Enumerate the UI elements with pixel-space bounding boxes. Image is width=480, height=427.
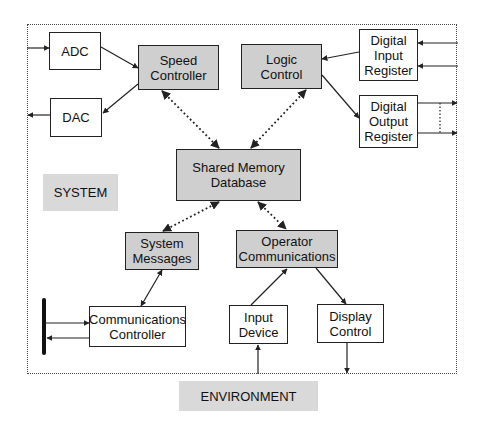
node-shared-memory-database: Shared Memory Database xyxy=(176,149,301,201)
node-operator-communications: Operator Communications xyxy=(236,230,338,268)
node-digital-input-register: Digital Input Register xyxy=(359,29,418,81)
node-communications-controller-label: Communications Controller xyxy=(89,312,186,342)
node-digital-output-register: Digital Output Register xyxy=(359,95,418,148)
node-operator-communications-label: Operator Communications xyxy=(239,234,336,264)
node-speed-controller: Speed Controller xyxy=(138,45,219,90)
node-adc: ADC xyxy=(49,32,101,70)
node-dac: DAC xyxy=(50,98,102,137)
node-logic-control-label: Logic Control xyxy=(261,52,303,82)
environment-label: ENVIRONMENT xyxy=(179,381,318,411)
node-communications-controller: Communications Controller xyxy=(89,306,186,347)
node-shared-memory-database-label: Shared Memory Database xyxy=(192,160,284,190)
node-input-device-label: Input Device xyxy=(239,310,279,340)
environment-label-text: ENVIRONMENT xyxy=(200,389,296,404)
system-label-text: SYSTEM xyxy=(54,185,107,200)
node-system-messages: System Messages xyxy=(125,232,199,270)
node-speed-controller-label: Speed Controller xyxy=(150,53,206,83)
node-display-control: Display Control xyxy=(317,304,384,343)
node-input-device: Input Device xyxy=(229,305,288,344)
node-display-control-label: Display Control xyxy=(329,309,372,339)
system-label: SYSTEM xyxy=(43,174,118,211)
communications-bus xyxy=(42,298,46,355)
node-logic-control: Logic Control xyxy=(241,44,322,89)
node-system-messages-label: System Messages xyxy=(132,236,191,266)
node-dac-label: DAC xyxy=(62,110,89,125)
node-digital-output-register-label: Digital Output Register xyxy=(364,99,412,144)
node-adc-label: ADC xyxy=(61,44,88,59)
node-digital-input-register-label: Digital Input Register xyxy=(364,33,412,78)
